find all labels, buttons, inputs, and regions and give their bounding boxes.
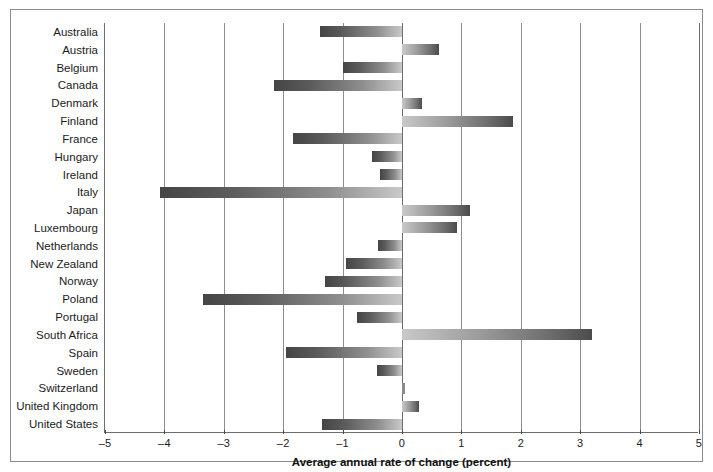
x-tick-label: –2 (263, 437, 303, 449)
category-label-finland: Finland (60, 116, 98, 128)
bar-switzerland (402, 383, 405, 394)
bar-spain (286, 347, 402, 358)
x-tick-label: –4 (144, 437, 184, 449)
bar-sweden (377, 365, 402, 376)
x-tick (699, 430, 700, 434)
category-label-spain: Spain (69, 348, 98, 360)
x-axis-title: Average annual rate of change (percent) (105, 456, 698, 468)
bar-france (293, 133, 402, 144)
category-label-united-kingdom: United Kingdom (16, 401, 98, 413)
category-label-switzerland: Switzerland (39, 383, 98, 395)
bar-row: Portugal (105, 308, 698, 326)
category-label-canada: Canada (58, 80, 98, 92)
chart-figure: –5–4–3–2–1012345 AustraliaAustriaBelgium… (10, 9, 703, 462)
bar-row: Spain (105, 344, 698, 362)
bar-row: France (105, 130, 698, 148)
bar-new-zealand (346, 258, 402, 269)
bar-italy (160, 187, 402, 198)
category-label-portugal: Portugal (55, 312, 98, 324)
plot-area: –5–4–3–2–1012345 AustraliaAustriaBelgium… (104, 23, 698, 433)
category-label-luxembourg: Luxembourg (34, 223, 98, 235)
category-label-new-zealand: New Zealand (30, 259, 98, 271)
bar-australia (320, 26, 402, 37)
bar-canada (274, 80, 402, 91)
x-tick-label: 0 (382, 437, 422, 449)
bar-finland (402, 116, 513, 127)
bar-poland (203, 294, 402, 305)
bar-row: Italy (105, 183, 698, 201)
bar-row: Netherlands (105, 237, 698, 255)
category-label-sweden: Sweden (56, 366, 98, 378)
bar-ireland (380, 169, 402, 180)
bar-norway (325, 276, 402, 287)
category-label-italy: Italy (77, 187, 98, 199)
x-tick-label: –5 (85, 437, 125, 449)
bar-belgium (343, 62, 402, 73)
category-label-south-africa: South Africa (36, 330, 98, 342)
bar-hungary (372, 151, 402, 162)
category-label-france: France (62, 134, 98, 146)
x-tick-label: 4 (620, 437, 660, 449)
category-label-australia: Australia (53, 27, 98, 39)
bar-netherlands (378, 240, 402, 251)
category-label-hungary: Hungary (55, 152, 98, 164)
bar-row: Australia (105, 23, 698, 41)
category-label-netherlands: Netherlands (36, 241, 98, 253)
bar-row: Switzerland (105, 380, 698, 398)
bar-row: Japan (105, 201, 698, 219)
bar-united-states (322, 419, 402, 430)
x-tick-label: –3 (204, 437, 244, 449)
bar-row: United Kingdom (105, 397, 698, 415)
bar-row: Finland (105, 112, 698, 130)
bar-austria (402, 44, 439, 55)
bar-south-africa (402, 329, 592, 340)
bar-united-kingdom (402, 401, 419, 412)
bar-row: New Zealand (105, 255, 698, 273)
bar-row: Norway (105, 273, 698, 291)
bar-row: Sweden (105, 362, 698, 380)
category-label-japan: Japan (67, 205, 98, 217)
bar-row: Ireland (105, 166, 698, 184)
category-label-norway: Norway (59, 276, 98, 288)
x-tick-label: 3 (560, 437, 600, 449)
category-label-united-states: United States (29, 419, 98, 431)
bar-row: Poland (105, 290, 698, 308)
bar-japan (402, 205, 470, 216)
bar-portugal (357, 312, 402, 323)
category-label-poland: Poland (62, 294, 98, 306)
bar-row: Canada (105, 76, 698, 94)
category-label-denmark: Denmark (51, 98, 98, 110)
bar-row: Denmark (105, 94, 698, 112)
x-tick-label: –1 (323, 437, 363, 449)
bar-row: United States (105, 415, 698, 433)
x-tick-label: 2 (501, 437, 541, 449)
bar-row: Belgium (105, 59, 698, 77)
category-label-belgium: Belgium (56, 63, 98, 75)
bar-luxembourg (402, 222, 457, 233)
category-label-austria: Austria (62, 45, 98, 57)
bar-row: Luxembourg (105, 219, 698, 237)
gridline-5 (699, 23, 700, 432)
bar-denmark (402, 98, 422, 109)
bar-row: Hungary (105, 148, 698, 166)
category-label-ireland: Ireland (63, 170, 98, 182)
x-tick-label: 5 (679, 437, 713, 449)
bar-row: Austria (105, 41, 698, 59)
x-tick-label: 1 (441, 437, 481, 449)
bar-row: South Africa (105, 326, 698, 344)
